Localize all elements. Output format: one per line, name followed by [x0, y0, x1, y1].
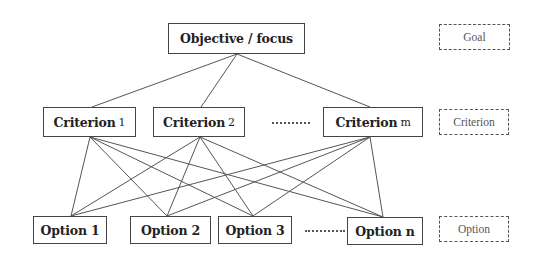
criterion-node-1: Criterion1	[43, 107, 136, 137]
option-node-1: Option 1	[33, 216, 107, 244]
criterion-node-2: Criterion2	[153, 107, 245, 137]
criteria-ellipsis	[272, 122, 310, 124]
legend-option-label: Option	[458, 223, 490, 235]
option-label: Option 2	[141, 223, 200, 238]
criterion-node-m: Criterionm	[323, 107, 423, 137]
legend-goal-label: Goal	[463, 31, 485, 43]
criterion-label: Criterion	[335, 115, 397, 130]
option-label: Option 3	[225, 223, 284, 238]
option-label: Option n	[355, 224, 414, 239]
legend-criterion: Criterion	[439, 109, 509, 135]
option-label: Option 1	[40, 223, 99, 238]
option-node-3: Option 3	[218, 216, 292, 244]
criterion-label: Criterion	[163, 115, 225, 130]
criterion-label: Criterion	[54, 115, 116, 130]
criterion-index: m	[400, 116, 410, 129]
goal-node: Objective / focus	[168, 23, 305, 54]
ahp-hierarchy-diagram: Objective / focus Criterion1 Criterion2 …	[0, 0, 542, 263]
legend-goal: Goal	[439, 24, 510, 50]
criterion-index: 1	[119, 116, 126, 129]
criterion-index: 2	[228, 116, 235, 129]
options-ellipsis	[305, 230, 345, 232]
option-node-n: Option n	[347, 217, 423, 245]
option-node-2: Option 2	[130, 216, 211, 244]
legend-criterion-label: Criterion	[453, 116, 495, 128]
legend-option: Option	[439, 216, 509, 242]
goal-label: Objective / focus	[180, 31, 293, 46]
